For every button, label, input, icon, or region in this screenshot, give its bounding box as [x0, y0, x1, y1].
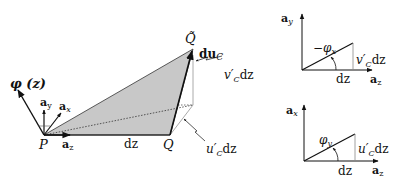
label-u-side: u′Cdz [358, 142, 389, 158]
label-phi-y: φy [319, 133, 332, 148]
label-ay-axis: ay [281, 12, 293, 26]
label-az: az [62, 138, 73, 152]
label-dz-top: dz [336, 72, 350, 86]
label-du: duC [199, 47, 223, 62]
label-Q: Q [163, 137, 174, 152]
label-u-dz: u′Cdz [206, 142, 237, 158]
label-v-side: v′Cdz [356, 53, 386, 69]
angle-arc [331, 57, 336, 70]
angle-arc-bottom [333, 148, 338, 161]
label-ax: ax [59, 100, 71, 114]
label-ay: ay [40, 96, 52, 110]
label-dz-bottom: dz [338, 164, 352, 178]
label-ax-axis: ax [286, 104, 298, 118]
top-right-figure: ay az −φx v′Cdz dz [281, 12, 386, 87]
label-Q-tilde: Q̃ [185, 31, 196, 46]
diagram-canvas: φ (z) ay ax az P Q Q̃ dz duC v′Cdz u′Cdz… [0, 0, 399, 186]
label-P: P [38, 137, 48, 152]
label-dz-main: dz [124, 137, 138, 151]
label-phi: φ (z) [10, 76, 46, 91]
label-az-axis-bottom: az [372, 164, 383, 178]
shaded-triangle [44, 49, 193, 135]
bottom-right-figure: ax az φy u′Cdz dz [286, 104, 389, 178]
label-neg-phi-x: −φx [313, 41, 336, 56]
label-az-axis: az [370, 73, 381, 87]
label-v-dz: v′Cdz [224, 68, 254, 84]
main-figure: φ (z) ay ax az P Q Q̃ dz duC v′Cdz u′Cdz [10, 31, 254, 158]
u-leader [184, 119, 205, 141]
